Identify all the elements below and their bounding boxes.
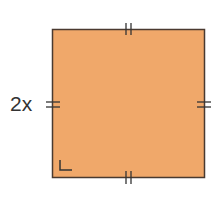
square [53, 30, 205, 178]
square-diagram [0, 0, 220, 197]
side-label: 2x [10, 92, 32, 116]
